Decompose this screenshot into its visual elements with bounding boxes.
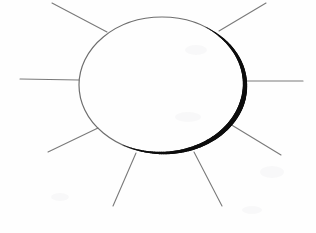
paper-speck <box>185 45 207 55</box>
drawing-canvas: Hand-drawn sun diagram A sketched ellips… <box>0 0 316 233</box>
sun-sketch-figure: Hand-drawn sun diagram A sketched ellips… <box>0 0 316 233</box>
paper-speck <box>175 112 201 122</box>
paper-speck <box>242 206 262 214</box>
paper-speck <box>260 166 284 178</box>
paper-speck <box>51 193 69 201</box>
canvas-background <box>0 0 316 233</box>
